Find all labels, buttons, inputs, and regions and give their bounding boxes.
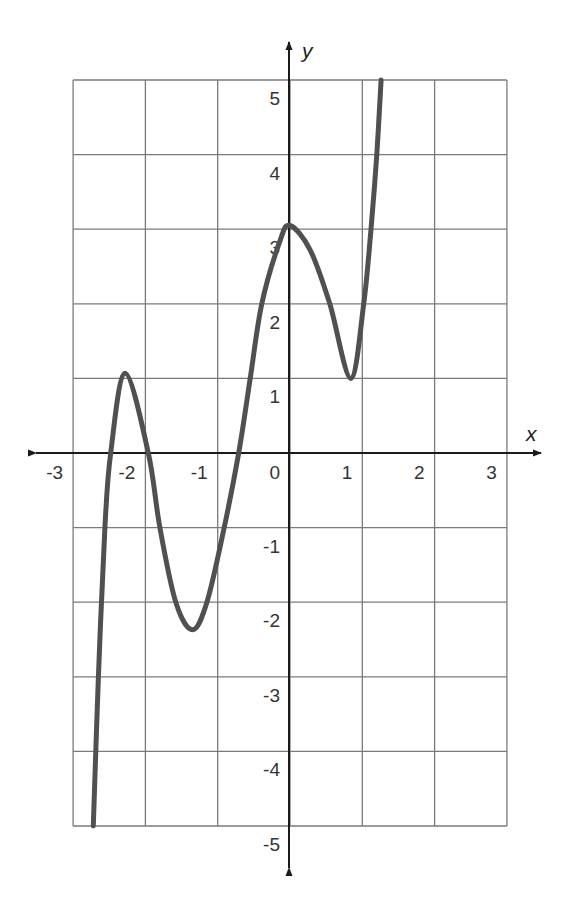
x-tick-label: 0 xyxy=(269,462,280,483)
y-tick-label: -3 xyxy=(263,685,280,706)
x-tick-label: 1 xyxy=(342,462,353,483)
x-tick-label: -3 xyxy=(46,462,63,483)
function-graph: -3-2-1012354321-1-2-3-4-5 x y xyxy=(0,0,569,905)
x-axis-label: x xyxy=(525,422,538,445)
x-tick-label: 3 xyxy=(486,462,497,483)
y-tick-label: 2 xyxy=(269,312,280,333)
y-tick-label: -5 xyxy=(263,834,280,855)
y-tick-label: -1 xyxy=(263,536,280,557)
y-tick-label: 1 xyxy=(269,386,280,407)
y-axis-label: y xyxy=(300,39,314,62)
y-tick-label: 5 xyxy=(269,88,280,109)
x-tick-label: -2 xyxy=(118,462,135,483)
x-tick-label: 2 xyxy=(414,462,425,483)
y-tick-label: -2 xyxy=(263,610,280,631)
tick-labels: -3-2-1012354321-1-2-3-4-5 xyxy=(46,88,497,855)
y-tick-label: 4 xyxy=(269,163,280,184)
y-tick-label: -4 xyxy=(263,759,280,780)
x-tick-label: -1 xyxy=(191,462,208,483)
